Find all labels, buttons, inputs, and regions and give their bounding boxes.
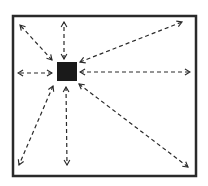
arrow-top-right <box>80 22 182 62</box>
arrow-bottom <box>66 87 67 165</box>
source-square <box>57 62 77 81</box>
dispersion-diagram <box>0 0 208 186</box>
arrow-bottom-right <box>79 84 188 167</box>
arrow-top-left <box>20 25 52 60</box>
arrow-group <box>18 22 190 167</box>
arrow-bottom-left <box>19 86 53 165</box>
